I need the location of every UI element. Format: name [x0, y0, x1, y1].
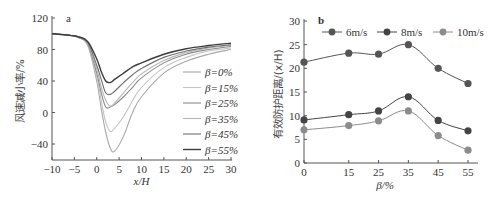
data-point [435, 117, 442, 124]
x-tick-label: −5 [69, 163, 81, 175]
x-tick-label: 30 [226, 163, 238, 175]
panel-label-b: b [318, 14, 324, 26]
y-tick-label: 25 [289, 39, 301, 51]
data-point [405, 107, 412, 114]
data-point [464, 127, 471, 134]
data-point [300, 126, 307, 133]
x-tick-label: 10 [136, 163, 148, 175]
data-point [405, 93, 412, 100]
figure: −4004080120−10−5051015202530x/H风速减小率/%aβ… [0, 0, 492, 201]
x-tick-label: 0 [301, 166, 307, 178]
legend-label: β=15% [204, 82, 238, 94]
y-tick-label: 0 [295, 157, 301, 169]
y-axis-label: 有效防护距离/(x/H) [272, 49, 284, 138]
x-tick-label: −10 [43, 163, 61, 175]
data-point [300, 116, 307, 123]
x-tick-label: 35 [403, 166, 415, 178]
data-point [345, 122, 352, 129]
legend-label: β=0% [204, 66, 233, 78]
y-tick-label: 10 [289, 110, 301, 122]
data-point [375, 117, 382, 124]
y-tick-label: 20 [289, 62, 301, 74]
panel-b-chart: 05101520253001525354555β/%有效防护距离/(x/H)b6… [272, 14, 484, 191]
x-tick-label: 15 [158, 163, 170, 175]
y-tick-label: 80 [37, 44, 49, 56]
y-tick-label: 40 [37, 75, 49, 87]
x-tick-label: 45 [433, 166, 445, 178]
data-point [300, 59, 307, 66]
legend-label: 10m/s [457, 26, 484, 38]
x-tick-label: 5 [116, 163, 122, 175]
y-tick-label: 30 [289, 15, 301, 27]
data-point [375, 107, 382, 114]
panel-label-a: a [66, 12, 71, 24]
panel-a-chart: −4004080120−10−5051015202530x/H风速减小率/%aβ… [14, 12, 238, 187]
y-tick-label: −40 [31, 138, 49, 150]
y-tick-label: 15 [289, 86, 301, 98]
data-point [375, 51, 382, 58]
x-tick-label: 25 [373, 166, 385, 178]
x-tick-label: 0 [94, 163, 100, 175]
legend-label: β=25% [204, 97, 238, 109]
y-axis-label: 风速减小率/% [14, 59, 26, 123]
data-point [345, 111, 352, 118]
data-point [435, 132, 442, 139]
x-tick-label: 20 [181, 163, 193, 175]
series-line [304, 97, 468, 131]
data-point [464, 80, 471, 87]
y-tick-label: 5 [295, 133, 301, 145]
legend-label: β=45% [204, 128, 238, 140]
x-axis-label: β/% [375, 179, 394, 191]
legend-marker [384, 29, 391, 36]
y-tick-label: 0 [43, 107, 49, 119]
data-point [345, 50, 352, 57]
legend-marker [329, 29, 336, 36]
x-axis-label: x/H [133, 175, 151, 187]
x-tick-label: 25 [203, 163, 215, 175]
x-tick-label: 55 [463, 166, 475, 178]
series-line [304, 44, 468, 83]
series-line [304, 110, 468, 150]
legend-marker [440, 29, 447, 36]
legend-label: β=35% [204, 113, 238, 125]
y-tick-label: 120 [32, 12, 49, 24]
data-point [464, 147, 471, 154]
legend-label: 6m/s [346, 26, 367, 38]
legend-label: 8m/s [401, 26, 422, 38]
legend-label: β=55% [204, 144, 238, 156]
x-tick-label: 15 [343, 166, 355, 178]
data-point [405, 41, 412, 48]
data-point [435, 65, 442, 72]
